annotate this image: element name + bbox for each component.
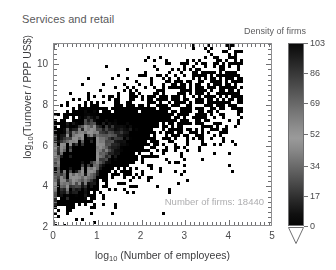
x-tick-top xyxy=(107,44,108,47)
y-tick-right xyxy=(268,166,271,167)
x-tick-top xyxy=(76,44,77,47)
x-tick-top xyxy=(142,44,143,49)
x-tick xyxy=(220,222,221,225)
colorbar-tick xyxy=(304,166,308,167)
x-tick xyxy=(251,222,252,225)
colorbar-tick-label: 17 xyxy=(310,191,320,201)
x-tick-top xyxy=(133,44,134,47)
x-tick xyxy=(216,222,217,225)
x-tick xyxy=(172,222,173,225)
x-tick-top xyxy=(220,44,221,47)
x-tick-top xyxy=(264,44,265,47)
x-tick-top xyxy=(172,44,173,47)
y-tick xyxy=(54,90,57,91)
y-tick xyxy=(54,186,59,187)
y-tick xyxy=(54,176,57,177)
colorbar-tick xyxy=(304,103,308,104)
x-tick xyxy=(229,220,230,225)
x-tick-top xyxy=(207,44,208,47)
colorbar-tick-label: 69 xyxy=(310,98,320,108)
x-tick-top xyxy=(216,44,217,47)
colorbar-underflow-arrow-icon xyxy=(288,227,304,244)
x-tick-top xyxy=(120,44,121,47)
y-tick-right xyxy=(268,75,271,76)
x-tick-top xyxy=(98,44,99,49)
y-tick-right xyxy=(268,59,271,60)
x-tick xyxy=(120,222,121,225)
x-tick-top xyxy=(80,44,81,47)
y-tick xyxy=(54,110,57,111)
x-tick-top xyxy=(67,44,68,47)
y-tick xyxy=(54,207,57,208)
y-tick xyxy=(54,59,57,60)
x-tick-top xyxy=(251,44,252,47)
x-tick-top xyxy=(85,44,86,47)
y-tick-right xyxy=(268,197,271,198)
x-tick-top xyxy=(63,44,64,47)
y-tick-right xyxy=(268,110,271,111)
x-tick xyxy=(137,222,138,225)
colorbar-tick-label: 52 xyxy=(310,129,320,139)
colorbar-title: Density of firms xyxy=(244,26,306,36)
x-tick xyxy=(264,222,265,225)
x-tick-top xyxy=(168,44,169,47)
x-tick xyxy=(164,222,165,225)
x-tick-top xyxy=(185,44,186,49)
y-tick-right xyxy=(268,120,271,121)
x-tick xyxy=(185,220,186,225)
chart-root: Services and retail Number of firms: 184… xyxy=(0,0,336,270)
colorbar: 01734526986103 xyxy=(288,43,304,226)
x-tick-top xyxy=(177,44,178,47)
x-tick xyxy=(155,222,156,225)
y-tick-right xyxy=(268,54,271,55)
x-tick-label: 1 xyxy=(94,230,100,241)
y-tick-right xyxy=(268,44,271,45)
y-tick xyxy=(54,115,57,116)
x-tick-top xyxy=(159,44,160,47)
x-tick-top xyxy=(115,44,116,47)
y-tick xyxy=(54,222,57,223)
x-tick-label: 0 xyxy=(50,230,56,241)
x-tick xyxy=(115,222,116,225)
x-tick xyxy=(247,222,248,225)
x-tick xyxy=(67,222,68,225)
x-tick-top xyxy=(199,44,200,47)
x-tick-top xyxy=(89,44,90,47)
x-tick xyxy=(199,222,200,225)
y-tick-right xyxy=(268,85,271,86)
colorbar-tick xyxy=(304,134,308,135)
x-tick-top xyxy=(194,44,195,47)
y-tick xyxy=(54,120,57,121)
x-tick xyxy=(107,222,108,225)
x-tick xyxy=(212,222,213,225)
x-tick-label: 4 xyxy=(225,230,231,241)
y-tick-right xyxy=(268,151,271,152)
y-tick-right xyxy=(268,191,271,192)
x-tick-top xyxy=(146,44,147,47)
x-tick-top xyxy=(238,44,239,47)
y-tick-label: 2 xyxy=(28,221,48,232)
firm-count-annotation: Number of firms: 18440 xyxy=(165,196,264,207)
x-tick-label: 2 xyxy=(138,230,144,241)
y-tick xyxy=(54,197,57,198)
x-tick-top xyxy=(93,44,94,47)
x-tick-label: 5 xyxy=(269,230,275,241)
y-tick-right xyxy=(268,90,271,91)
y-tick-right xyxy=(268,181,271,182)
x-tick xyxy=(181,222,182,225)
x-tick-top xyxy=(150,44,151,47)
y-tick-right xyxy=(268,207,271,208)
y-tick-right xyxy=(268,80,271,81)
colorbar-tick-label: 34 xyxy=(310,161,320,171)
colorbar-tick-label: 86 xyxy=(310,68,320,78)
x-tick xyxy=(89,222,90,225)
y-tick xyxy=(54,161,57,162)
x-tick-top xyxy=(155,44,156,47)
x-tick-top xyxy=(128,44,129,47)
x-tick xyxy=(80,222,81,225)
x-tick xyxy=(58,222,59,225)
x-tick xyxy=(102,222,103,225)
x-tick xyxy=(142,220,143,225)
x-tick-top xyxy=(255,44,256,47)
x-tick-top xyxy=(234,44,235,47)
